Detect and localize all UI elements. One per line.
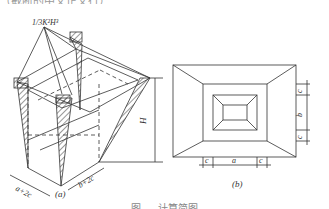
figure-caption: 图 … 计算简图 (0, 200, 329, 209)
panel-a-caption: (a) (55, 189, 66, 199)
dim-c-bottom: c (295, 135, 304, 139)
width-label-b2c: b+2c (77, 173, 97, 189)
apex-volume-label: 1/3K²H³ (32, 18, 59, 27)
panel-b-drawing (173, 65, 310, 168)
panel-a-drawing (10, 27, 163, 196)
dim-c-right: c (259, 156, 263, 165)
panel-b-caption: (b) (232, 179, 243, 189)
height-label: H (138, 117, 148, 125)
dim-c-left: c (205, 156, 209, 165)
dim-b: b (295, 113, 304, 117)
figure-canvas: 1/3K²H³ H a+2c b+2c (a) c b c c a c (b) (0, 0, 329, 209)
dim-c-top: c (295, 89, 304, 93)
dim-a: a (232, 156, 236, 165)
